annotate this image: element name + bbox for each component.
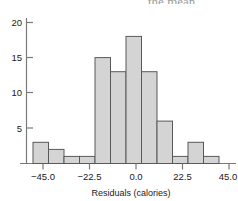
y-tick-label-5: 5 xyxy=(17,123,22,134)
bar-bin-11 xyxy=(188,142,204,163)
bar-bin-6 xyxy=(111,72,127,164)
x-tick-label-zero: 0.0 xyxy=(129,171,142,182)
bar-bin-3 xyxy=(64,156,80,163)
y-tick-label-15: 15 xyxy=(11,52,22,63)
y-axis-tick-labels: 20 15 10 5 xyxy=(11,17,22,134)
bar-bin-7 xyxy=(126,36,142,163)
histogram-figure: 20 15 10 5 −45.0 −22.5 0.0 22.5 45.0 Res… xyxy=(0,0,238,201)
y-axis-ticks xyxy=(27,23,34,129)
x-axis-title: Residuals (calories) xyxy=(91,188,170,198)
x-axis-tick-labels: −45.0 −22.5 0.0 22.5 45.0 xyxy=(31,171,237,182)
bar-bin-10 xyxy=(173,156,189,163)
x-axis-ticks xyxy=(43,164,229,170)
bar-bin-9 xyxy=(157,121,173,163)
x-tick-label-45: 45.0 xyxy=(219,171,238,182)
x-tick-label-neg22p5: −22.5 xyxy=(77,171,101,182)
y-tick-label-20: 20 xyxy=(11,17,22,28)
bar-bin-5 xyxy=(95,58,111,164)
bar-bin-1 xyxy=(33,142,49,163)
y-tick-label-10: 10 xyxy=(11,87,22,98)
bar-bin-4 xyxy=(80,156,96,163)
bar-bin-8 xyxy=(142,72,158,164)
x-tick-label-22p5: 22.5 xyxy=(173,171,192,182)
histogram-bars xyxy=(33,36,219,163)
x-tick-label-neg45: −45.0 xyxy=(31,171,55,182)
bar-bin-2 xyxy=(49,149,65,163)
bar-bin-12 xyxy=(204,156,220,163)
